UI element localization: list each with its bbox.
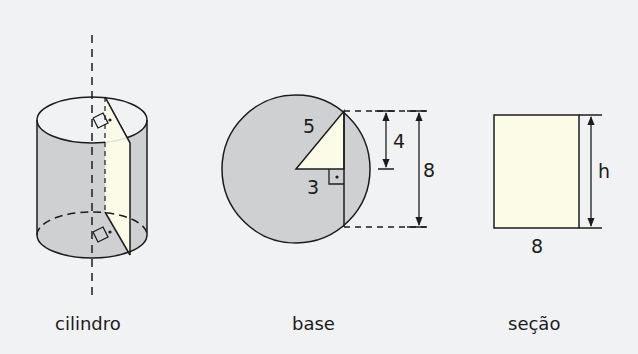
caption-section: seção <box>508 313 560 334</box>
caption-cylinder: cilindro <box>55 313 121 334</box>
hypotenuse-label: 5 <box>303 115 315 137</box>
base-figure: 5 3 4 8 <box>222 95 435 243</box>
geometry-figure: 5 3 4 8 h 8 cilindro base seção <box>0 0 638 354</box>
distance-label: 3 <box>307 176 319 198</box>
section-rectangle <box>494 115 579 228</box>
half-chord-label: 4 <box>393 130 405 152</box>
cylinder-figure <box>37 35 147 295</box>
section-figure: h 8 <box>494 115 610 257</box>
height-label: h <box>598 160 610 182</box>
caption-base: base <box>292 313 335 334</box>
width-label: 8 <box>531 235 543 257</box>
chord-label: 8 <box>423 159 435 181</box>
